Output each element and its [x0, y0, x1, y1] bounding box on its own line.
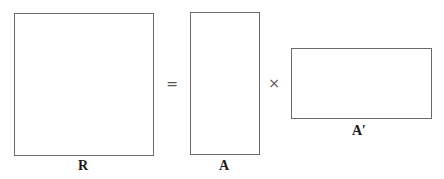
matrix-a-box: [190, 12, 260, 155]
matrix-a-transpose-box: [291, 48, 432, 119]
equals-operator: =: [166, 77, 178, 91]
matrix-a-transpose-label: A′: [352, 124, 366, 138]
matrix-a-label: A: [219, 159, 229, 173]
times-operator: ×: [268, 76, 280, 90]
matrix-r-box: [14, 13, 154, 156]
matrix-r-label: R: [78, 159, 88, 173]
